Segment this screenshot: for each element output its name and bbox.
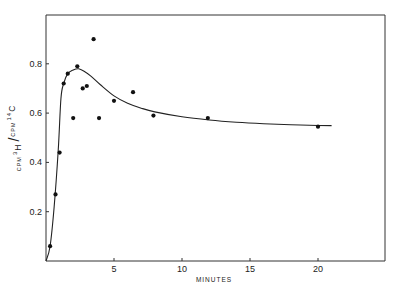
data-point [316,125,320,129]
y-tick-label: 0.2 [29,207,42,217]
data-point [48,244,52,248]
data-point [71,116,75,120]
x-tick-label: 5 [111,264,116,274]
data-point [75,64,79,68]
data-point [62,81,66,85]
data-point [97,116,101,120]
x-tick-label: 15 [245,264,255,274]
data-point [85,84,89,88]
y-tick-label: 0.4 [29,157,42,167]
x-axis-title: MINUTES [196,276,232,283]
y-tick-label: 0.8 [29,59,42,69]
data-point [151,113,155,117]
svg-text:CPM3H/CPM14C: CPM3H/CPM14C [6,105,23,172]
data-point [81,86,85,90]
curve-path [46,69,332,261]
x-tick-label: 20 [313,264,323,274]
chart: 5101520 0.20.40.60.8 MINUTES CPM3H/CPM14… [0,0,397,293]
data-point [112,99,116,103]
plot-frame [46,15,385,261]
data-point [53,192,57,196]
x-ticks: 5101520 [111,258,323,274]
data-point [92,37,96,41]
data-point [66,72,70,76]
data-point [206,116,210,120]
x-tick-label: 10 [177,264,187,274]
fitted-curve [46,69,332,261]
data-point [131,90,135,94]
y-axis-title: CPM3H/CPM14C [6,105,23,172]
data-point [58,150,62,154]
data-points [48,37,320,248]
y-tick-label: 0.6 [29,108,42,118]
